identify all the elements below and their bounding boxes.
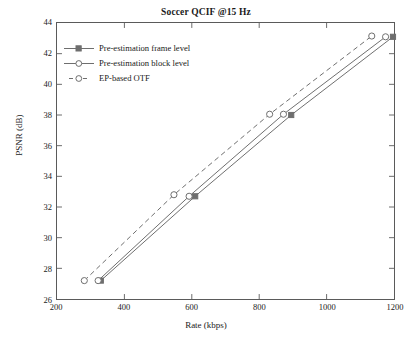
data-point-marker <box>81 278 87 284</box>
y-axis-ticks <box>57 54 394 269</box>
y-tick-label: 32 <box>26 202 52 212</box>
legend-swatch-frame-level <box>64 41 94 54</box>
legend-label: Pre-estimation frame level <box>99 43 190 53</box>
data-point-marker <box>267 111 273 117</box>
y-axis-tick-labels: 26283032343638404244 <box>24 22 52 300</box>
data-point-marker <box>382 34 388 40</box>
legend-item[interactable]: Pre-estimation frame level <box>64 40 234 55</box>
data-point-marker <box>390 34 395 39</box>
y-tick-label: 42 <box>26 48 52 58</box>
x-axis-label: Rate (kbps) <box>0 320 412 330</box>
x-tick-label: 400 <box>117 302 130 312</box>
legend-item[interactable]: Pre-estimation block level <box>64 55 234 70</box>
y-tick-label: 28 <box>26 264 52 274</box>
legend-swatch-ep-based-otf <box>64 71 94 84</box>
x-axis-tick-labels: 20040060080010001200 <box>56 302 395 318</box>
data-point-marker <box>171 192 177 198</box>
x-tick-label: 600 <box>185 302 198 312</box>
y-tick-label: 36 <box>26 141 52 151</box>
y-tick-label: 30 <box>26 233 52 243</box>
data-point-marker <box>280 111 286 117</box>
legend-swatch-block-level <box>64 56 94 69</box>
y-tick-label: 38 <box>26 110 52 120</box>
legend-item[interactable]: EP-based OTF <box>64 70 234 85</box>
legend-label: EP-based OTF <box>99 73 150 83</box>
legend-label: Pre-estimation block level <box>99 58 189 68</box>
legend: Pre-estimation frame level Pre-estimatio… <box>64 40 234 85</box>
x-tick-label: 200 <box>50 302 63 312</box>
x-tick-label: 1000 <box>319 302 336 312</box>
y-tick-label: 40 <box>26 79 52 89</box>
data-point-marker <box>289 112 294 117</box>
figure: Soccer QCIF @15 Hz PSNR (dB) 26283032343… <box>0 0 412 346</box>
y-tick-label: 26 <box>26 295 52 305</box>
data-point-marker <box>186 193 192 199</box>
data-point-marker <box>95 278 101 284</box>
y-tick-label: 34 <box>26 171 52 181</box>
x-tick-label: 800 <box>253 302 266 312</box>
data-point-marker <box>193 194 198 199</box>
data-point-marker <box>369 33 375 39</box>
y-tick-label: 44 <box>26 17 52 27</box>
y-axis-label: PSNR (dB) <box>14 90 24 180</box>
chart-title: Soccer QCIF @15 Hz <box>0 7 412 17</box>
x-tick-label: 1200 <box>387 302 404 312</box>
